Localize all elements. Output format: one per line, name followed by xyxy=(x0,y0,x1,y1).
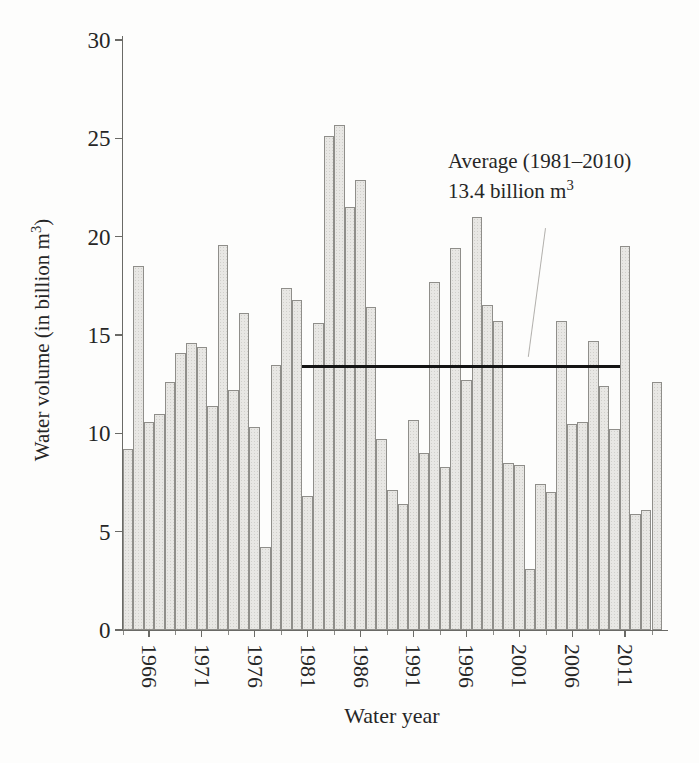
bar-1982 xyxy=(313,323,324,630)
bar-1984 xyxy=(334,125,345,630)
bar-2014 xyxy=(652,382,663,630)
bar-1966 xyxy=(144,422,155,630)
bar-1980 xyxy=(292,300,303,630)
x-tick-label: 1981 xyxy=(297,644,319,688)
bar-2002 xyxy=(525,569,536,630)
bar-2001 xyxy=(514,465,525,630)
bar-1969 xyxy=(175,353,186,630)
bar-2011 xyxy=(620,246,631,630)
bar-1996 xyxy=(461,380,472,630)
bar-1992 xyxy=(419,453,430,630)
average-annotation-line2-text: 13.4 billion m xyxy=(448,179,566,203)
x-tick-label: 1996 xyxy=(455,644,477,688)
bar-1995 xyxy=(450,248,461,630)
average-line xyxy=(302,365,619,368)
y-axis-title-sup: 3 xyxy=(28,226,44,233)
bar-1981 xyxy=(302,496,313,630)
bar-1983 xyxy=(324,136,335,630)
y-axis-line xyxy=(122,36,123,631)
bar-1965 xyxy=(133,266,144,630)
y-tick-label: 5 xyxy=(69,520,111,543)
y-tick-label: 0 xyxy=(69,619,111,642)
bar-1974 xyxy=(228,390,239,630)
x-axis-line xyxy=(122,630,668,631)
bar-1972 xyxy=(207,406,218,630)
bar-2006 xyxy=(567,424,578,631)
bar-2000 xyxy=(503,463,514,630)
y-axis-title-close: ) xyxy=(30,219,54,226)
x-tick-label: 1991 xyxy=(402,644,424,688)
y-tick-label: 15 xyxy=(69,324,111,347)
annotation-leader-line xyxy=(528,228,546,357)
average-annotation-line2: 13.4 billion m3 xyxy=(448,176,631,206)
y-tick-label: 10 xyxy=(69,422,111,445)
bar-1964 xyxy=(123,449,134,630)
bar-1990 xyxy=(398,504,409,630)
bar-1998 xyxy=(482,305,493,630)
y-tick-label: 25 xyxy=(69,127,111,150)
bar-2007 xyxy=(577,422,588,630)
bar-2008 xyxy=(588,341,599,630)
bar-2009 xyxy=(599,386,610,630)
x-tick-label: 1986 xyxy=(350,644,372,688)
bar-1986 xyxy=(355,180,366,630)
x-axis-title: Water year xyxy=(344,703,439,729)
bar-1989 xyxy=(387,490,398,630)
bar-1988 xyxy=(376,439,387,630)
bar-2010 xyxy=(609,429,620,630)
bar-2012 xyxy=(630,514,641,630)
bar-1971 xyxy=(197,347,208,630)
x-tick-label: 2001 xyxy=(508,644,530,688)
bar-1985 xyxy=(345,207,356,630)
bar-1976 xyxy=(249,427,260,630)
bar-1967 xyxy=(154,414,165,630)
average-annotation-line2-sup: 3 xyxy=(566,177,573,193)
water-volume-bar-chart: 0510152025301966197119761981198619911996… xyxy=(0,0,699,763)
x-tick-label: 1976 xyxy=(244,644,266,688)
bar-1993 xyxy=(429,282,440,630)
average-annotation: Average (1981–2010) 13.4 billion m3 xyxy=(448,146,631,206)
bar-1987 xyxy=(366,307,377,630)
bar-1970 xyxy=(186,343,197,630)
average-annotation-line1: Average (1981–2010) xyxy=(448,146,631,176)
bar-1979 xyxy=(281,288,292,630)
x-tick-label: 2011 xyxy=(614,644,636,687)
y-axis-title-text: Water volume (in billion m xyxy=(30,233,54,461)
bar-1978 xyxy=(271,365,282,631)
bar-1997 xyxy=(472,217,483,630)
x-tick-label: 1971 xyxy=(191,644,213,688)
bar-1968 xyxy=(165,382,176,630)
bar-1973 xyxy=(218,245,229,630)
bar-2003 xyxy=(535,484,546,630)
bar-1977 xyxy=(260,547,271,630)
bar-2004 xyxy=(546,492,557,630)
bar-1975 xyxy=(239,313,250,630)
bar-2013 xyxy=(641,510,652,630)
y-tick-label: 20 xyxy=(69,225,111,248)
y-tick-label: 30 xyxy=(69,28,111,51)
x-tick-label: 2006 xyxy=(561,644,583,688)
y-axis-title: Water volume (in billion m3) xyxy=(30,219,55,461)
x-tick-label: 1966 xyxy=(138,644,160,688)
bar-1994 xyxy=(440,467,451,630)
bar-1991 xyxy=(408,420,419,630)
